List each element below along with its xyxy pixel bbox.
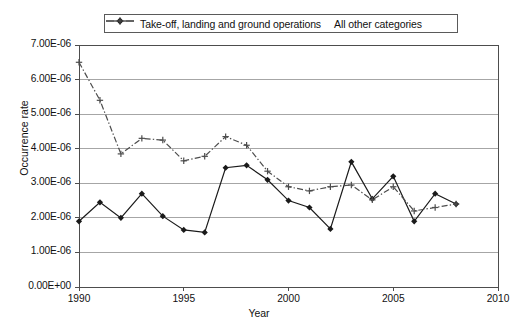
data-point	[369, 197, 375, 203]
plot-area	[0, 0, 518, 329]
data-point	[118, 151, 124, 157]
marker-diamond	[202, 229, 208, 235]
data-point	[76, 59, 82, 65]
marker-diamond	[181, 227, 187, 233]
data-point	[348, 159, 354, 165]
data-point	[306, 188, 312, 194]
data-point	[223, 165, 229, 171]
data-point	[453, 201, 459, 207]
data-point	[285, 184, 291, 190]
marker-diamond	[223, 165, 229, 171]
data-point	[348, 182, 354, 188]
plot-frame	[79, 45, 498, 287]
data-point	[432, 204, 438, 210]
data-point	[160, 137, 166, 143]
data-point	[327, 184, 333, 190]
data-point	[97, 97, 103, 103]
data-point	[202, 229, 208, 235]
occurrence-rate-line-chart: Take-off, landing and ground operations …	[0, 0, 518, 329]
marker-diamond	[348, 159, 354, 165]
data-point	[181, 227, 187, 233]
